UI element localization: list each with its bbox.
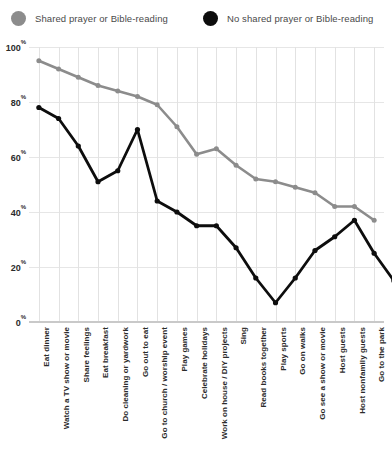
y-axis-tick-label: 20% [11, 262, 26, 273]
circle-marker-icon [203, 11, 218, 26]
data-point[interactable] [332, 204, 337, 209]
x-axis-tick-label: Eat dinner [42, 327, 51, 367]
x-axis-tick-label: Go to church / worship event [160, 327, 169, 439]
data-point[interactable] [36, 105, 41, 110]
data-point[interactable] [253, 275, 258, 280]
legend-label-shared-prayer: Shared prayer or Bible-reading [35, 13, 168, 24]
data-point[interactable] [312, 190, 317, 195]
data-point[interactable] [56, 116, 61, 121]
chart-container: Shared prayer or Bible-reading No shared… [0, 0, 392, 467]
x-axis-tick-label: Watch a TV show or movie [62, 327, 71, 429]
plot-area [29, 47, 384, 322]
data-point[interactable] [76, 75, 81, 80]
legend-item-shared-prayer[interactable]: Shared prayer or Bible-reading [11, 11, 168, 26]
y-axis-tick-label: 0% [16, 317, 26, 328]
x-axis-tick-label: Host guests [338, 327, 347, 373]
x-axis-tick-label: Eat breakfast [101, 327, 110, 378]
x-axis-tick-label: Go out to eat [141, 327, 150, 377]
x-axis-tick-label: Work on house / DIY projects [220, 327, 229, 439]
x-axis-tick-label: Go see a show or movie [318, 327, 327, 420]
data-point[interactable] [194, 223, 199, 228]
legend-label-no-shared-prayer: No shared prayer or Bible-reading [227, 13, 373, 24]
y-axis-tick-label: 40% [11, 207, 26, 218]
series-no-shared-prayer [36, 105, 392, 305]
data-point[interactable] [293, 275, 298, 280]
data-point[interactable] [155, 198, 160, 203]
data-point[interactable] [36, 58, 41, 63]
y-axis-tick-labels: 100%80%60%40%20%0% [0, 47, 26, 322]
data-point[interactable] [155, 102, 160, 107]
data-point[interactable] [352, 218, 357, 223]
data-point[interactable] [115, 168, 120, 173]
data-point[interactable] [214, 223, 219, 228]
data-point[interactable] [273, 179, 278, 184]
data-point[interactable] [115, 89, 120, 94]
data-point[interactable] [253, 177, 258, 182]
data-point[interactable] [95, 179, 100, 184]
data-point[interactable] [174, 209, 179, 214]
data-point[interactable] [233, 245, 238, 250]
data-point[interactable] [312, 248, 317, 253]
data-point[interactable] [96, 83, 101, 88]
series-shared-prayer [36, 58, 376, 223]
data-point[interactable] [293, 185, 298, 190]
gridline [29, 322, 384, 323]
data-point[interactable] [332, 234, 337, 239]
y-axis-tick-label: 60% [11, 152, 26, 163]
data-point[interactable] [135, 94, 140, 99]
x-axis-tick-label: Sing [239, 327, 248, 345]
x-axis-tick-label: Do cleaning or yardwork [121, 327, 130, 422]
y-axis-tick-label: 80% [11, 97, 26, 108]
y-axis-tick-label: 100% [6, 42, 26, 53]
data-point[interactable] [372, 251, 377, 256]
x-axis-tick-label: Go on walks [298, 327, 307, 375]
legend-item-no-shared-prayer[interactable]: No shared prayer or Bible-reading [203, 11, 373, 26]
data-point[interactable] [234, 163, 239, 168]
data-point[interactable] [273, 300, 278, 305]
x-axis-tick-labels: Eat dinnerWatch a TV show or movieShare … [29, 325, 384, 467]
x-axis-tick-label: Play games [180, 327, 189, 372]
x-axis-tick-label: Share feelings [82, 327, 91, 382]
chart-legend: Shared prayer or Bible-reading No shared… [0, 0, 392, 38]
x-axis-tick-label: Play sports [279, 327, 288, 371]
data-series-layer [29, 47, 384, 322]
data-point[interactable] [56, 67, 61, 72]
data-point[interactable] [174, 124, 179, 129]
data-point[interactable] [214, 146, 219, 151]
circle-marker-icon [11, 11, 26, 26]
data-point[interactable] [194, 152, 199, 157]
series-line [39, 108, 392, 303]
x-axis-tick-label: Host nonfamily guests [358, 327, 367, 414]
x-axis-tick-label: Celebrate holidays [200, 327, 209, 399]
data-point[interactable] [135, 127, 140, 132]
data-point[interactable] [372, 218, 377, 223]
data-point[interactable] [352, 204, 357, 209]
x-axis-tick-label: Go to the park [377, 327, 386, 382]
data-point[interactable] [76, 143, 81, 148]
x-axis-tick-label: Read books together [259, 327, 268, 408]
series-line [39, 61, 374, 221]
